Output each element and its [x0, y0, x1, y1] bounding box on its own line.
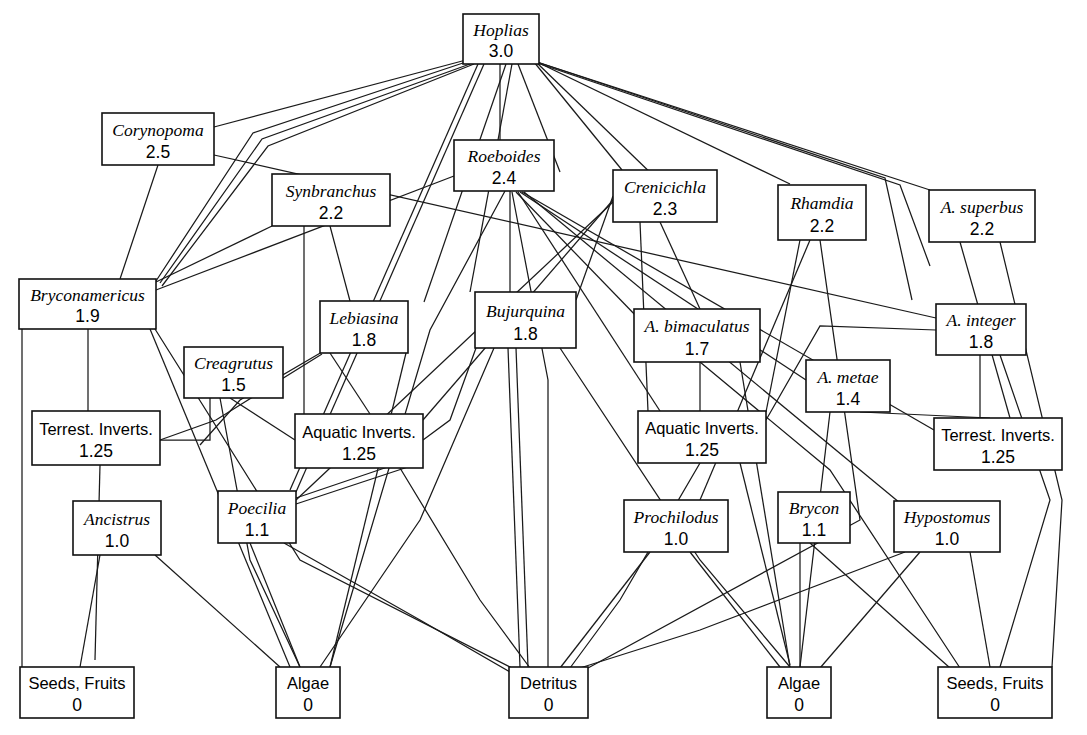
node-bujurquina[interactable]: Bujurquina1.8 [475, 292, 576, 348]
link-hypostomus-to-seeds_right [970, 552, 990, 667]
node-label-hoplias: Hoplias [472, 20, 529, 40]
node-label-hypostomus: Hypostomus [903, 507, 991, 527]
node-value-creagrutus: 1.5 [221, 375, 245, 395]
node-label-prochilodus: Prochilodus [633, 507, 719, 527]
node-value-seeds_right: 0 [990, 695, 1000, 715]
node-label-terrest_left: Terrest. Inverts. [39, 420, 153, 438]
node-asuperbus[interactable]: A. superbus2.2 [929, 190, 1035, 242]
node-value-aquatic_left: 1.25 [342, 444, 376, 464]
node-value-hypostomus: 1.0 [935, 529, 960, 549]
nodes-layer: Hoplias3.0Corynopoma2.5Roeboides2.4Synbr… [19, 14, 1062, 718]
link-poecilia-to-algae_left [250, 543, 300, 667]
node-label-ancistrus: Ancistrus [83, 509, 150, 529]
node-value-aquatic_right: 1.25 [685, 440, 719, 460]
node-hypostomus[interactable]: Hypostomus1.0 [894, 501, 1000, 552]
node-value-roeboides: 2.4 [492, 168, 517, 188]
link-aquatic_left-to-detritus [400, 468, 530, 668]
node-bryconamericus[interactable]: Bryconamericus1.9 [19, 279, 156, 329]
node-brycon[interactable]: Brycon1.1 [778, 492, 850, 543]
node-value-terrest_left: 1.25 [79, 441, 113, 461]
node-detritus[interactable]: Detritus0 [509, 667, 588, 718]
node-value-prochilodus: 1.0 [664, 529, 689, 549]
node-abimaculatus[interactable]: A. bimaculatus1.7 [634, 309, 760, 362]
node-value-terrest_right: 1.25 [981, 447, 1015, 467]
node-ametae[interactable]: A. metae1.4 [806, 360, 890, 412]
link-hoplias-to-bryconamericus [156, 62, 466, 281]
link-hypostomus-to-algae_right [820, 552, 920, 668]
node-ainteger[interactable]: A. integer1.8 [936, 304, 1026, 355]
node-label-roeboides: Roeboides [467, 146, 541, 166]
node-value-abimaculatus: 1.7 [685, 339, 709, 359]
node-value-ancistrus: 1.0 [105, 531, 130, 551]
node-label-synbranchus: Synbranchus [286, 181, 377, 201]
link-crenicichla-to-bujurquina [576, 196, 613, 300]
link-bujurquina-to-aquatic_left [423, 348, 476, 440]
node-label-aquatic_right: Aquatic Inverts. [645, 419, 759, 437]
node-label-ametae: A. metae [816, 367, 878, 387]
node-label-algae_right: Algae [778, 674, 820, 692]
node-value-rhamdia: 2.2 [810, 216, 834, 236]
node-value-bujurquina: 1.8 [513, 324, 537, 344]
link-rhamdia-to-aquatic_right [766, 240, 800, 412]
node-label-ainteger: A. integer [945, 310, 1015, 330]
node-label-detritus: Detritus [520, 674, 577, 692]
node-roeboides[interactable]: Roeboides2.4 [454, 140, 554, 191]
node-value-seeds_left: 0 [72, 695, 82, 715]
node-aquatic_right[interactable]: Aquatic Inverts.1.25 [638, 411, 766, 463]
node-rhamdia[interactable]: Rhamdia2.2 [778, 185, 866, 240]
node-value-bryconamericus: 1.9 [75, 306, 99, 326]
link-ainteger-to-seeds_right [1000, 355, 1050, 667]
node-value-ametae: 1.4 [836, 389, 861, 409]
link-corynopoma-to-bryconamericus [120, 165, 158, 279]
link-hoplias-to-ametae [537, 63, 930, 266]
link-aquatic_right-to-detritus [570, 463, 700, 668]
node-algae_left[interactable]: Algae0 [276, 667, 340, 718]
node-terrest_right[interactable]: Terrest. Inverts.1.25 [934, 418, 1062, 470]
node-crenicichla[interactable]: Crenicichla2.3 [613, 170, 717, 222]
link-hoplias-to-ainteger [537, 62, 912, 300]
node-value-ainteger: 1.8 [969, 332, 993, 352]
link-ametae-to-terrest_right [860, 412, 990, 418]
link-hoplias-to-rhamdia [537, 62, 790, 184]
node-prochilodus[interactable]: Prochilodus1.0 [624, 500, 728, 552]
node-hoplias[interactable]: Hoplias3.0 [463, 14, 539, 64]
node-value-brycon: 1.1 [802, 520, 826, 540]
link-lebiasina-to-aquatic_left [330, 353, 370, 414]
link-lebiasina-to-algae_left [330, 353, 406, 667]
node-algae_right[interactable]: Algae0 [767, 667, 831, 718]
node-label-rhamdia: Rhamdia [789, 193, 853, 213]
node-label-creagrutus: Creagrutus [194, 353, 273, 373]
node-label-asuperbus: A. superbus [940, 197, 1024, 217]
node-label-seeds_right: Seeds, Fruits [946, 674, 1043, 692]
node-corynopoma[interactable]: Corynopoma2.5 [102, 113, 214, 165]
node-label-poecilia: Poecilia [227, 498, 287, 518]
node-label-seeds_left: Seeds, Fruits [28, 674, 125, 692]
node-label-terrest_right: Terrest. Inverts. [941, 426, 1055, 444]
node-creagrutus[interactable]: Creagrutus1.5 [184, 347, 283, 398]
node-value-synbranchus: 2.2 [319, 203, 343, 223]
node-seeds_right[interactable]: Seeds, Fruits0 [938, 667, 1052, 718]
node-seeds_left[interactable]: Seeds, Fruits0 [20, 667, 134, 718]
node-label-aquatic_left: Aquatic Inverts. [302, 423, 416, 441]
link-poecilia-to-detritus [284, 543, 510, 672]
node-value-asuperbus: 2.2 [970, 219, 994, 239]
node-label-lebiasina: Lebiasina [328, 308, 398, 328]
link-synbranchus-to-lebiasina2 [330, 226, 350, 301]
food-web-diagram: Hoplias3.0Corynopoma2.5Roeboides2.4Synbr… [0, 0, 1087, 735]
node-synbranchus[interactable]: Synbranchus2.2 [272, 174, 390, 226]
node-value-detritus: 0 [544, 695, 554, 715]
link-crenicichla-to-abimaculatus [660, 222, 700, 309]
node-terrest_left[interactable]: Terrest. Inverts.1.25 [32, 411, 160, 465]
node-ancistrus[interactable]: Ancistrus1.0 [73, 501, 161, 555]
node-poecilia[interactable]: Poecilia1.1 [218, 491, 296, 543]
node-label-algae_left: Algae [287, 674, 329, 692]
node-lebiasina[interactable]: Lebiasina1.8 [320, 301, 408, 353]
node-value-crenicichla: 2.3 [653, 199, 677, 219]
node-value-lebiasina: 1.8 [352, 330, 376, 350]
node-label-corynopoma: Corynopoma [112, 120, 204, 140]
link-creagrutus-to-aquatic_left [230, 398, 295, 440]
node-aquatic_left[interactable]: Aquatic Inverts.1.25 [295, 414, 423, 468]
node-label-crenicichla: Crenicichla [624, 177, 706, 197]
node-value-algae_right: 0 [794, 695, 804, 715]
node-label-bryconamericus: Bryconamericus [30, 285, 145, 305]
